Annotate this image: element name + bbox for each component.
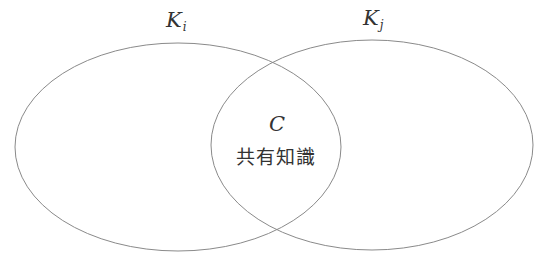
label-k-j-main: K — [363, 6, 379, 30]
label-k-j: Kj — [363, 6, 383, 32]
label-k-i: Ki — [166, 8, 187, 34]
label-k-i-main: K — [166, 8, 182, 32]
venn-diagram: Ki Kj C 共有知識 — [0, 0, 547, 267]
label-shared-knowledge: 共有知識 — [236, 142, 316, 169]
label-k-j-subscript: j — [380, 18, 384, 32]
label-intersection-symbol: C — [269, 112, 285, 136]
label-k-i-subscript: i — [183, 20, 187, 34]
